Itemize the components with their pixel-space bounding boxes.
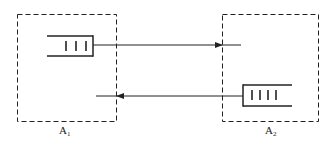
queue-a2 [243,84,292,106]
node-a2-label: A2 [265,124,277,138]
node-a1-boundary [18,15,117,122]
node-a1: A1 [18,15,117,139]
diagram-canvas: A1 A2 [0,0,333,142]
queue-a1 [47,35,93,56]
node-a1-label: A1 [59,124,71,138]
node-a2: A2 [223,15,319,139]
